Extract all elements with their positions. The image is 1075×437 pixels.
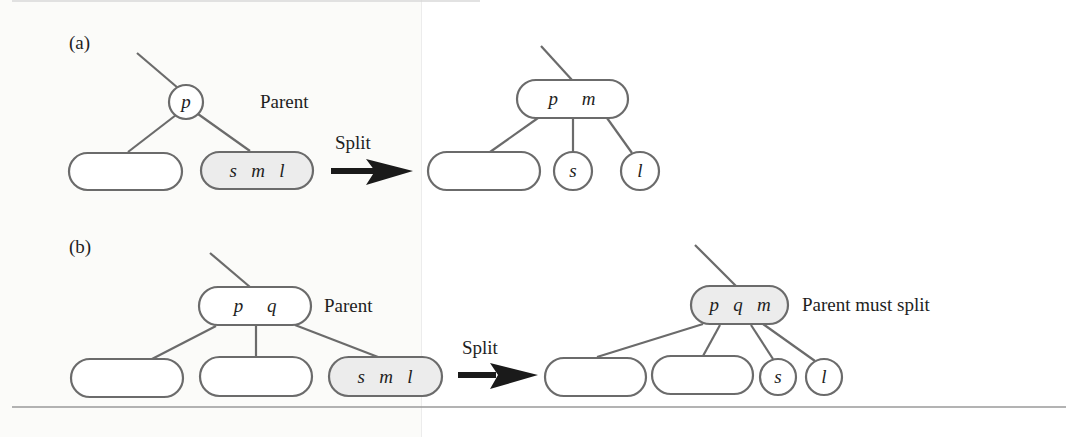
edge-to-grandparent	[137, 53, 178, 88]
left-leaf-node	[71, 359, 183, 397]
edge-parent-left-child	[128, 115, 176, 152]
leaf-node-2	[652, 356, 753, 394]
parent-must-split-annotation: Parent must split	[802, 294, 930, 315]
left-leaf-node	[428, 152, 540, 190]
leaf-key-l: l	[821, 366, 826, 387]
panel-a: (a) p Parent s m l Split p	[69, 32, 659, 190]
overfull-leaf-keys: s m l	[358, 366, 413, 387]
panel-a-before-tree: p Parent s m l	[69, 53, 313, 190]
edge-parent-right-child	[198, 114, 250, 151]
tree-split-diagram: (a) p Parent s m l Split p	[0, 0, 1075, 437]
arrow-shaft	[458, 372, 496, 378]
split-label: Split	[335, 132, 372, 153]
edge-parent-left-child	[490, 118, 538, 152]
panel-b-before-tree: p q Parent s m l	[71, 253, 442, 397]
edge-to-grandparent	[210, 253, 250, 287]
parent-key: p	[179, 91, 191, 112]
parent-annotation: Parent	[324, 295, 373, 316]
parent-keys: p m	[547, 88, 596, 109]
edge-parent-leaf2	[703, 325, 720, 356]
left-leaf-node	[69, 153, 182, 190]
parent-annotation: Parent	[260, 91, 309, 112]
panel-b-split-arrow: Split	[458, 337, 538, 389]
panel-b: (b) p q Parent s m l Split	[69, 236, 930, 397]
edge-parent-l	[607, 118, 632, 153]
leaf-key-l: l	[637, 160, 642, 181]
panel-b-after-tree: p q m Parent must split s l	[545, 245, 930, 396]
arrow-right-icon	[490, 363, 538, 389]
leaf-node-1	[545, 358, 646, 396]
panel-a-after-tree: p m s l	[428, 46, 659, 190]
edge-parent-right-child	[295, 325, 378, 357]
arrow-shaft	[331, 168, 375, 174]
edge-parent-left-child	[152, 326, 216, 359]
split-label: Split	[462, 337, 499, 358]
panel-b-label: (b)	[69, 236, 91, 258]
edge-to-grandparent	[541, 46, 572, 80]
overfull-leaf-keys: s m l	[230, 160, 285, 181]
leaf-key-s: s	[569, 160, 576, 181]
middle-leaf-node	[200, 357, 312, 396]
edge-to-grandparent	[695, 245, 737, 287]
panel-a-label: (a)	[69, 32, 90, 54]
parent-keys: p q m	[707, 294, 770, 315]
panel-a-split-arrow: Split	[331, 132, 413, 185]
leaf-key-s: s	[774, 366, 781, 387]
parent-keys: p q	[232, 295, 277, 316]
edge-parent-leaf1	[597, 324, 703, 357]
